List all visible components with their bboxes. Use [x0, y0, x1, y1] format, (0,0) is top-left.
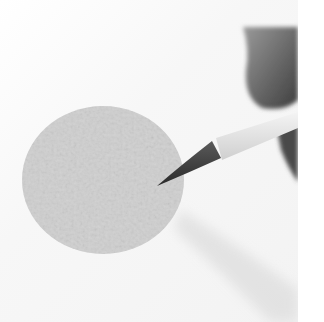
painted-circle — [22, 106, 184, 254]
photo-scene — [0, 0, 324, 322]
illustration — [0, 0, 324, 322]
hand — [243, 27, 298, 182]
paintbrush — [157, 112, 298, 186]
brush-shadow — [175, 210, 298, 322]
right-margin — [298, 0, 324, 322]
